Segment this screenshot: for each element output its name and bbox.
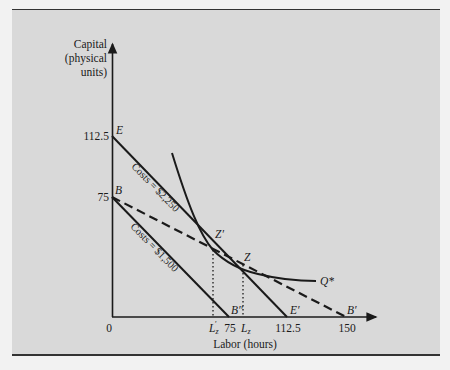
isoquant-label: Q* [320, 275, 334, 287]
y-axis-label-line2: (physical [65, 52, 107, 65]
x-tick-origin: 0 [106, 322, 112, 334]
point-label-z-prime: Z′ [215, 228, 224, 240]
y-tick-75: 75 [98, 191, 110, 203]
y-axis-label-line3: units) [81, 66, 107, 79]
cost-label-1500: Costs = $1,500 [129, 221, 181, 274]
x-tick-112-5: 112.5 [275, 322, 301, 334]
y-axis-label-line1: Capital [74, 38, 107, 51]
dashed-line-bb-prime [112, 197, 346, 317]
point-label-e: E [115, 124, 123, 136]
x-tick-lz: Lz [240, 322, 251, 336]
cost-label-2250: Costs = $2,250 [130, 161, 182, 214]
x-tick-lz-prime: Lz′ [208, 320, 219, 336]
point-label-z: Z [244, 251, 251, 263]
point-label-b-prime: B′ [347, 304, 357, 316]
point-label-b: B [115, 184, 122, 196]
x-tick-75: 75 [224, 322, 236, 334]
x-tick-150: 150 [338, 322, 356, 334]
point-label-b-double-prime: B″ [231, 304, 243, 316]
y-tick-112-5: 112.5 [84, 130, 110, 142]
isoquant-chart: Capital (physical units) 112.5 75 0 Lz′ … [0, 0, 450, 370]
point-label-e-prime: E′ [289, 304, 300, 316]
x-axis-label: Labor (hours) [213, 338, 277, 351]
